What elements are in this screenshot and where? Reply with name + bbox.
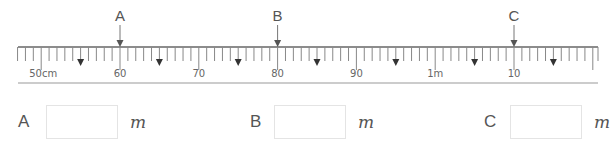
answer-unit-c: m	[594, 112, 610, 132]
scale-label: 10	[508, 68, 521, 79]
pointer-arrow-icon	[274, 40, 281, 47]
scale-label: 70	[192, 68, 205, 79]
scale-label: 80	[271, 68, 284, 79]
half-mark-triangle-icon	[77, 59, 84, 66]
answer-input-a[interactable]	[46, 105, 118, 139]
scale-label: 60	[114, 68, 127, 79]
answer-unit-b: m	[358, 112, 374, 132]
half-mark-triangle-icon	[471, 59, 478, 66]
answer-row-a: A m	[18, 104, 146, 140]
answer-row-c: C m	[484, 104, 610, 140]
answer-row-b: B m	[250, 104, 374, 140]
half-mark-triangle-icon	[314, 59, 321, 66]
pointer-label-b: B	[273, 7, 283, 24]
answer-unit-a: m	[130, 112, 146, 132]
pointer-label-a: A	[115, 7, 125, 24]
half-mark-triangle-icon	[156, 59, 163, 66]
answer-label-b: B	[250, 112, 270, 132]
pointer-label-c: C	[509, 7, 520, 24]
scale-label: 90	[350, 68, 363, 79]
scale-label: 1m	[427, 68, 443, 79]
answer-label-c: C	[484, 112, 504, 132]
pointer-arrow-icon	[117, 40, 124, 47]
answer-label-a: A	[18, 112, 38, 132]
answer-input-b[interactable]	[274, 105, 346, 139]
scale-label: 50cm	[29, 68, 57, 79]
half-mark-triangle-icon	[392, 59, 399, 66]
measuring-ruler: 50cm607080901m10ABC	[0, 0, 608, 95]
half-mark-triangle-icon	[235, 59, 242, 66]
half-mark-triangle-icon	[550, 59, 557, 66]
answer-input-c[interactable]	[510, 105, 582, 139]
pointer-arrow-icon	[511, 40, 518, 47]
